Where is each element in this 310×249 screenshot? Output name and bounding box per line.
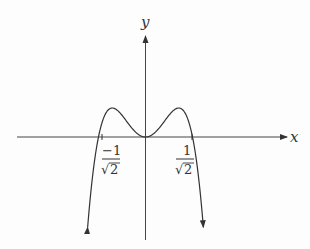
svg-text:√: √: [175, 162, 184, 177]
svg-text:−1: −1: [102, 143, 121, 158]
x-axis-label: x: [290, 128, 299, 146]
graph-figure: x y −1 √ 2 1 √ 2: [0, 0, 310, 249]
y-axis-label: y: [140, 13, 150, 31]
svg-text:2: 2: [184, 162, 192, 177]
svg-text:√: √: [101, 162, 110, 177]
svg-text:1: 1: [183, 143, 191, 158]
function-graph: x y −1 √ 2 1 √ 2: [0, 0, 310, 249]
tick-label-neg-inv-sqrt2: −1 √ 2: [101, 143, 121, 177]
svg-text:2: 2: [110, 162, 118, 177]
tick-label-inv-sqrt2: 1 √ 2: [175, 143, 194, 177]
